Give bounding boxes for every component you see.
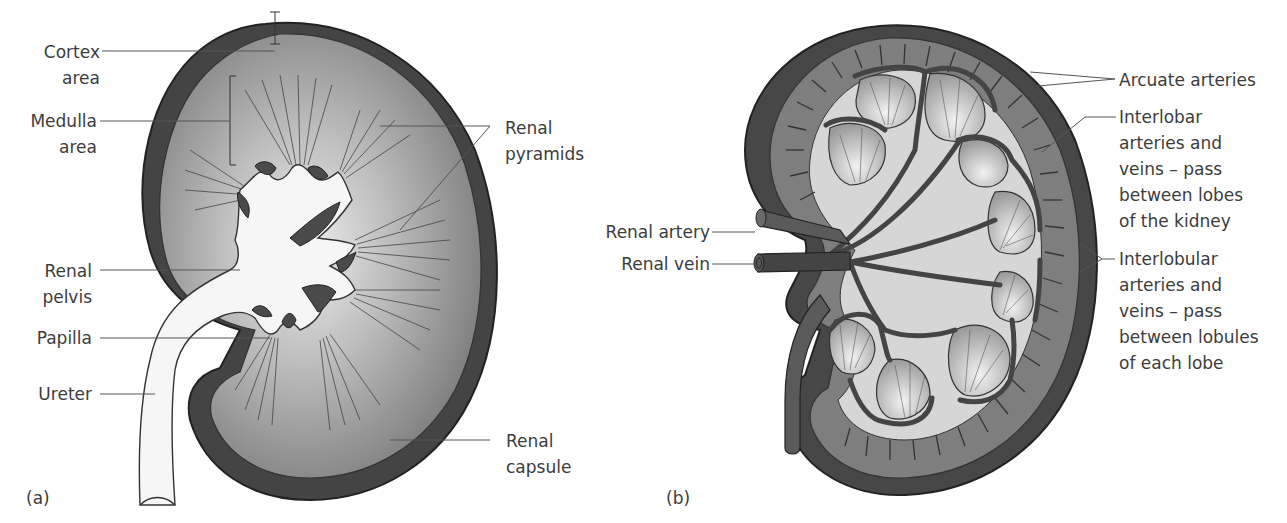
label-renal-capsule: Renal capsule	[506, 428, 571, 480]
label-arcuate-arteries: Arcuate arteries	[1119, 67, 1256, 93]
label-renal-pelvis: Renal pelvis	[10, 258, 92, 310]
label-renal-pyramids: Renal pyramids	[505, 115, 584, 167]
renal-vein	[758, 252, 850, 272]
label-cortex-area: Cortex area	[20, 39, 100, 91]
panel-letter-b: (b)	[666, 488, 690, 508]
label-ureter: Ureter	[10, 381, 92, 407]
label-renal-vein: Renal vein	[590, 251, 710, 277]
label-interlobular: Interlobular arteries and veins – pass b…	[1119, 246, 1259, 376]
label-medulla-area: Medulla area	[10, 108, 97, 160]
label-interlobar: Interlobar arteries and veins – pass bet…	[1119, 104, 1243, 234]
panel-b-kidney	[745, 25, 1097, 495]
label-papilla: Papilla	[10, 325, 92, 351]
panel-letter-a: (a)	[26, 488, 50, 508]
label-renal-artery: Renal artery	[590, 219, 710, 245]
panel-a-kidney	[139, 12, 497, 505]
